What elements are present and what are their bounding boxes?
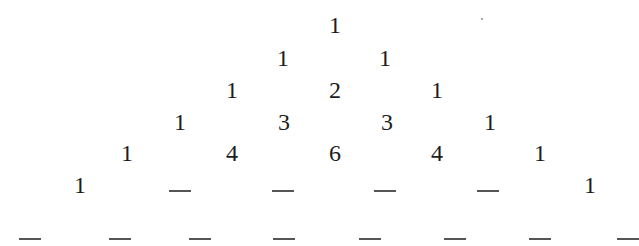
triangle-entry: 1 bbox=[277, 46, 289, 70]
triangle-entry: 1 bbox=[121, 141, 133, 165]
triangle-entry: 1 bbox=[74, 173, 86, 197]
blank-entry bbox=[169, 190, 191, 192]
triangle-entry: 4 bbox=[226, 141, 238, 165]
blank-entry bbox=[444, 238, 466, 240]
triangle-entry: 1 bbox=[174, 110, 186, 134]
triangle-entry: 4 bbox=[431, 141, 443, 165]
stray-dot bbox=[481, 18, 483, 20]
triangle-entry: 1 bbox=[329, 13, 341, 37]
blank-entry bbox=[359, 238, 381, 240]
triangle-entry: 6 bbox=[329, 141, 341, 165]
triangle-entry: 1 bbox=[534, 141, 546, 165]
triangle-entry: 1 bbox=[379, 46, 391, 70]
blank-entry bbox=[477, 190, 499, 192]
blank-entry bbox=[19, 238, 41, 240]
blank-entry bbox=[273, 238, 295, 240]
blank-entry bbox=[272, 190, 294, 192]
blank-entry bbox=[189, 238, 211, 240]
triangle-entry: 3 bbox=[381, 110, 393, 134]
triangle-entry: 3 bbox=[278, 110, 290, 134]
blank-entry bbox=[374, 190, 396, 192]
triangle-entry: 1 bbox=[584, 173, 596, 197]
blank-entry bbox=[109, 238, 131, 240]
blank-entry bbox=[617, 238, 639, 240]
triangle-entry: 1 bbox=[226, 78, 238, 102]
triangle-entry: 1 bbox=[484, 110, 496, 134]
triangle-entry: 1 bbox=[431, 78, 443, 102]
triangle-entry: 2 bbox=[329, 78, 341, 102]
blank-entry bbox=[529, 238, 551, 240]
